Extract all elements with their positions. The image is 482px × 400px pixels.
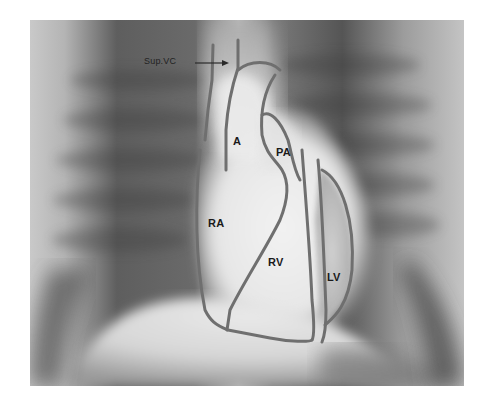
label-right-ventricle: RV — [268, 257, 283, 268]
label-pulmonary-artery: PA — [276, 147, 291, 158]
label-left-ventricle: LV — [327, 272, 341, 283]
label-sup-vc: Sup.VC — [144, 57, 176, 66]
label-right-atrium: RA — [208, 218, 224, 229]
xray-image — [30, 20, 464, 386]
label-aorta: A — [233, 136, 241, 147]
chest-xray-figure: Sup.VC A PA RA RV LV — [30, 20, 464, 386]
